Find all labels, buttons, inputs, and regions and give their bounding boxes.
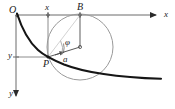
label-point-p: P [43, 59, 49, 69]
angle-phi-arc [64, 44, 65, 53]
tractrix-diagram: O x B x y P φ a y [0, 0, 175, 109]
tractrix-curve [17, 14, 161, 79]
label-angle-phi: φ [65, 38, 70, 47]
label-y-axis: y [9, 89, 13, 98]
label-origin: O [9, 5, 16, 15]
label-point-b: B [77, 2, 83, 12]
label-segment-a: a [63, 55, 68, 64]
label-x-axis: x [164, 10, 168, 19]
label-y-coordinate: y [8, 51, 12, 60]
diagram-canvas [0, 0, 175, 109]
label-x-coordinate: x [45, 3, 49, 12]
